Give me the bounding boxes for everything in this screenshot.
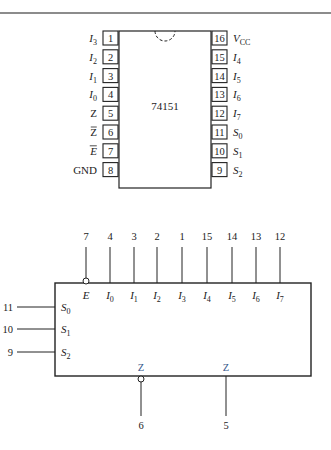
pin-label: VCC: [233, 32, 250, 47]
pin-number: 5: [223, 420, 228, 431]
pin-number: 4: [107, 231, 113, 242]
output-label: Z: [223, 362, 229, 373]
pin-label: I0: [88, 88, 97, 103]
pin-number: 13: [251, 231, 262, 242]
pin-number: 11: [3, 302, 13, 313]
pin-number: 1: [179, 231, 184, 242]
pin-label: E: [89, 145, 97, 157]
pin-label: I3: [88, 32, 97, 47]
pin-number: 12: [214, 108, 225, 119]
pin-number: 10: [3, 324, 14, 335]
pin-number: 6: [138, 420, 143, 431]
part-number: 74151: [151, 100, 179, 112]
pin-label: I1: [88, 70, 97, 85]
pin-number: 2: [108, 52, 113, 63]
pin-number: 12: [275, 231, 286, 242]
pin-label: E: [82, 289, 90, 301]
pin-label: I5: [232, 70, 241, 85]
pin-number: 9: [8, 347, 13, 358]
pin-number: 1: [108, 33, 113, 44]
mux-74151-figure: 741511I32I23I14I05Z6Z7E8GND16VCC15I414I5…: [0, 0, 331, 450]
pin-label: GND: [73, 164, 97, 176]
pin-number: 14: [214, 71, 225, 82]
pin-number: 16: [214, 33, 225, 44]
pin-number: 13: [214, 89, 225, 100]
pin-number: 7: [108, 146, 113, 157]
pin-label: I4: [232, 51, 241, 66]
pin-label: S2: [233, 164, 243, 179]
pin-number: 6: [108, 127, 113, 138]
pin-number: 9: [217, 165, 222, 176]
pin-label: I7: [232, 107, 241, 122]
pin-number: 4: [108, 89, 114, 100]
output-label: Z: [138, 362, 144, 373]
pin-number: 11: [214, 127, 224, 138]
pin-label: S1: [233, 145, 243, 160]
pin-number: 8: [108, 165, 113, 176]
pin-label: I6: [232, 88, 241, 103]
pin-label: S0: [233, 126, 243, 141]
inversion-bubble: [138, 376, 144, 382]
pin-number: 2: [154, 231, 159, 242]
pin-label: Z: [90, 107, 97, 119]
pin-number: 5: [108, 108, 113, 119]
pin-label: Z: [90, 126, 97, 138]
inversion-bubble: [83, 278, 89, 284]
pin-number: 15: [202, 231, 213, 242]
pin-label: I2: [88, 51, 97, 66]
pin-number: 3: [131, 231, 136, 242]
pin-number: 10: [214, 146, 225, 157]
pin-number: 7: [83, 231, 88, 242]
pin-number: 15: [214, 52, 225, 63]
pin-number: 14: [227, 231, 238, 242]
pin-number: 3: [108, 71, 113, 82]
